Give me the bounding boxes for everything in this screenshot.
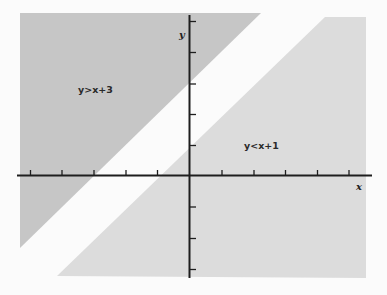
region-above-label: y>x+3: [78, 84, 113, 95]
x-axis-label: x: [355, 181, 363, 192]
inequality-graph: y>x+3 y<x+1 x y: [0, 0, 387, 295]
y-axis-label: y: [178, 29, 186, 40]
region-below-label: y<x+1: [244, 140, 279, 151]
